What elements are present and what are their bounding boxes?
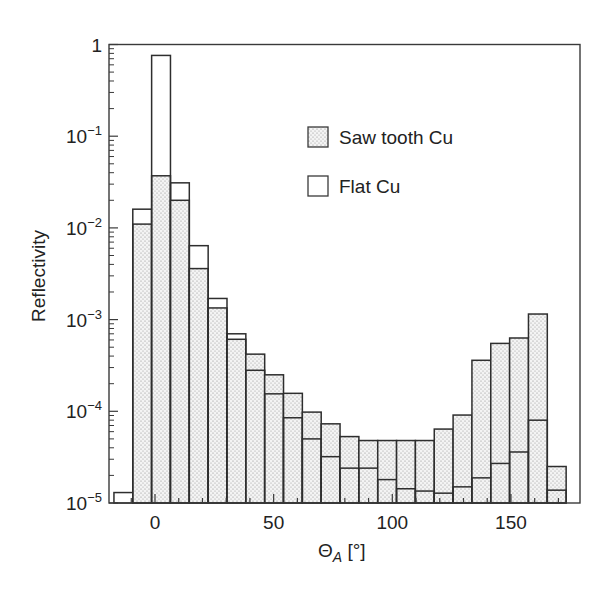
- legend-label-saw-tooth: Saw tooth Cu: [339, 127, 453, 148]
- bar-saw-tooth: [170, 200, 189, 503]
- legend-swatch-saw-tooth: [308, 127, 328, 147]
- histogram-bin: [321, 424, 340, 503]
- bar-saw-tooth: [189, 269, 208, 503]
- histogram-bin: [152, 55, 171, 503]
- histogram-bin: [547, 467, 566, 503]
- x-tick-label: 100: [376, 512, 408, 533]
- x-tick-label: 50: [263, 512, 284, 533]
- histogram-bin: [208, 298, 227, 503]
- bar-saw-tooth: [434, 429, 453, 503]
- bar-saw-tooth: [472, 360, 491, 503]
- histogram-bars: [114, 55, 566, 503]
- histogram-bin: [397, 441, 416, 503]
- bar-saw-tooth: [133, 224, 152, 503]
- bar-saw-tooth: [359, 441, 378, 503]
- y-tick-label: 10−2: [66, 215, 102, 239]
- y-axis-ticks: 110−110−210−310−410−5: [66, 35, 118, 515]
- bar-saw-tooth: [510, 338, 529, 503]
- histogram-bin: [510, 338, 529, 503]
- histogram-bin: [453, 415, 472, 503]
- bar-saw-tooth: [302, 412, 321, 503]
- histogram-bin: [434, 429, 453, 503]
- legend-swatch-flat: [308, 176, 328, 196]
- bar-saw-tooth: [152, 176, 171, 503]
- bar-saw-tooth: [246, 354, 265, 503]
- histogram-bin: [378, 441, 397, 503]
- x-tick-label: 150: [495, 512, 527, 533]
- bar-flat: [114, 493, 133, 503]
- histogram-bin: [340, 437, 359, 503]
- y-axis-title: Reflectivity: [28, 230, 49, 322]
- bar-saw-tooth: [284, 393, 303, 503]
- legend: Saw tooth Cu Flat Cu: [308, 127, 453, 197]
- bar-saw-tooth: [340, 437, 359, 503]
- histogram-bin: [415, 441, 434, 503]
- histogram-bin: [114, 493, 133, 503]
- x-tick-label: 0: [150, 512, 161, 533]
- bar-saw-tooth: [397, 441, 416, 503]
- histogram-bin: [265, 375, 284, 503]
- y-tick-label: 10−4: [66, 398, 102, 422]
- histogram-bin: [227, 334, 246, 503]
- bar-saw-tooth: [321, 424, 340, 503]
- x-axis-title-subscript: A: [332, 549, 342, 565]
- histogram-bin: [528, 314, 547, 503]
- x-axis-title: ΘA [°]: [318, 540, 366, 565]
- bar-saw-tooth: [491, 343, 510, 503]
- bar-saw-tooth: [453, 415, 472, 503]
- histogram-bin: [133, 209, 152, 503]
- x-axis-title-theta: Θ: [318, 540, 333, 561]
- bar-saw-tooth: [208, 308, 227, 503]
- histogram-bin: [359, 441, 378, 503]
- bar-saw-tooth: [547, 467, 566, 503]
- x-axis-title-unit: [°]: [342, 540, 365, 561]
- bar-saw-tooth: [415, 441, 434, 503]
- histogram-bin: [170, 183, 189, 503]
- y-tick-label: 10−5: [66, 490, 102, 514]
- histogram-bin: [472, 360, 491, 503]
- y-tick-label: 10−1: [66, 123, 102, 147]
- reflectivity-histogram-chart: 110−110−210−310−410−5 050100150 Saw toot…: [0, 0, 602, 595]
- y-tick-label: 1: [91, 35, 102, 56]
- legend-label-flat: Flat Cu: [339, 176, 400, 197]
- bar-saw-tooth: [528, 314, 547, 503]
- histogram-bin: [246, 354, 265, 503]
- histogram-bin: [284, 393, 303, 503]
- histogram-bin: [189, 246, 208, 503]
- histogram-bin: [491, 343, 510, 503]
- histogram-bin: [302, 412, 321, 503]
- bar-saw-tooth: [378, 441, 397, 503]
- y-tick-label: 10−3: [66, 307, 102, 331]
- bar-saw-tooth: [227, 339, 246, 503]
